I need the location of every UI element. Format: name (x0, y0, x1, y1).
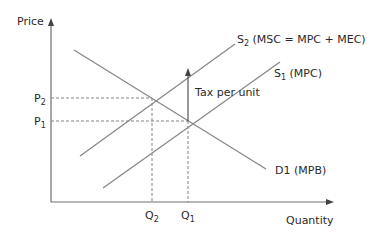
demand-curve (74, 50, 266, 169)
s1-curve (103, 62, 280, 188)
q1-label: Q1 (181, 209, 195, 224)
s1-label: S1 (MPC) (274, 67, 322, 82)
q2-label: Q2 (145, 209, 159, 224)
s2-label: S2 (MSC = MPC + MEC) (237, 33, 366, 48)
demand-label: D1 (MPB) (275, 164, 326, 177)
p1-label: P1 (34, 115, 46, 130)
s2-curve (80, 44, 235, 156)
tax-per-unit-label: Tax per unit (194, 86, 260, 99)
y-axis-label: Price (17, 15, 44, 28)
x-axis-label: Quantity (286, 214, 334, 227)
externality-diagram: Price Quantity P2 P1 Q2 Q1 S2 (MSC = MPC… (0, 0, 374, 234)
p2-label: P2 (34, 92, 46, 107)
